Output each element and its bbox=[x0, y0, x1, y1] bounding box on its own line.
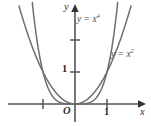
x-tick-label-one: 1 bbox=[104, 107, 109, 118]
curve-label-quartic-exponent: 4 bbox=[97, 12, 100, 19]
y-axis-label: y bbox=[64, 2, 69, 13]
curve-label-quadratic-exponent: 2 bbox=[131, 47, 134, 54]
curve-label-quartic: y = x4 bbox=[77, 13, 100, 25]
y-tick-label-one: 1 bbox=[62, 64, 67, 75]
y-axis-arrow-icon bbox=[71, 4, 78, 12]
origin-label: O bbox=[63, 106, 71, 117]
curve-label-quadratic-text: y = x bbox=[111, 49, 131, 59]
curve-label-quartic-text: y = x bbox=[77, 14, 97, 24]
x-axis-label: x bbox=[140, 107, 145, 118]
plot-canvas bbox=[0, 0, 151, 127]
curve-label-quadratic: y = x2 bbox=[111, 48, 134, 60]
graph-figure: y = x4 y = x2 1 1 O y x bbox=[0, 0, 151, 127]
